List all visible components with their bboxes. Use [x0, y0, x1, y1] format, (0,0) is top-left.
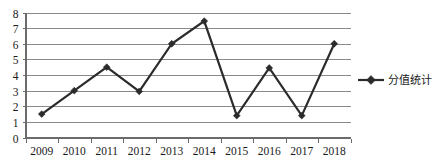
y-axis-tick-label: 7 — [13, 23, 19, 35]
x-axis-tick-label: 2014 — [193, 145, 216, 157]
x-axis-tick-label: 2012 — [128, 145, 151, 157]
y-axis-tick-labels: 012345678 — [13, 8, 19, 145]
x-axis-tick-label: 2016 — [258, 145, 281, 157]
x-axis-tick-label: 2009 — [30, 145, 53, 157]
x-axis-tick-label: 2011 — [95, 145, 118, 157]
x-axis-tick-label: 2015 — [225, 145, 248, 157]
data-series — [42, 21, 335, 116]
y-axis-tick-label: 6 — [13, 39, 19, 51]
legend-entry-label: 分值统计 — [388, 75, 432, 86]
y-axis-tick-label: 2 — [13, 101, 19, 113]
data-point-marker — [331, 40, 338, 47]
y-axis-tick-label: 4 — [13, 70, 19, 82]
series-line — [42, 21, 335, 116]
x-axis-tick-marks — [27, 139, 352, 143]
x-axis-tick-labels: 2009201020112012201320142015201620172018 — [30, 145, 346, 157]
y-axis-tick-label: 0 — [13, 133, 19, 145]
y-axis-tick-label: 3 — [13, 86, 19, 98]
chart-legend: 分值统计 — [358, 74, 432, 86]
x-axis-tick-label: 2017 — [290, 145, 313, 157]
x-axis-tick-label: 2018 — [323, 145, 346, 157]
y-axis-tick-label: 1 — [13, 117, 19, 129]
y-axis-tick-label: 8 — [13, 8, 19, 20]
x-axis-tick-label: 2010 — [63, 145, 86, 157]
y-axis-tick-label: 5 — [13, 54, 19, 66]
line-chart: 012345678 200920102011201220132014201520… — [0, 0, 444, 168]
legend-marker-diamond-icon — [358, 74, 384, 86]
x-axis-tick-label: 2013 — [160, 145, 183, 157]
